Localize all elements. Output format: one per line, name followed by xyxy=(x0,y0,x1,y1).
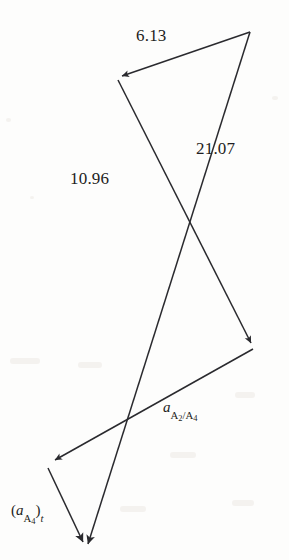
magnitude-label-21-07: 21.07 xyxy=(196,140,235,157)
vector-label-subscript: A4 xyxy=(24,512,36,524)
vector-diagram-svg xyxy=(0,0,289,560)
figure-canvas: 6.13 21.07 10.96 aA2/A4 (aA4)t xyxy=(0,0,289,560)
vector-label-subscript: A2/A4 xyxy=(171,409,198,421)
subscript-index-4: 4 xyxy=(31,516,35,526)
post-subscript-t: t xyxy=(41,512,44,524)
vector-label-base: a xyxy=(16,502,24,518)
subscript-index-4: 4 xyxy=(193,413,197,423)
subscript-index-2: 2 xyxy=(178,413,182,423)
vector-line-a-a2-a4 xyxy=(55,349,253,460)
vector-label-a-a4-t: (aA4)t xyxy=(11,503,44,518)
paren-close: ) xyxy=(36,502,41,518)
magnitude-label-6-13: 6.13 xyxy=(136,27,167,44)
vector-label-base: a xyxy=(163,399,171,415)
vector-line-21-07 xyxy=(88,32,250,544)
vector-line-10-96 xyxy=(118,80,251,343)
magnitude-label-10-96: 10.96 xyxy=(70,170,109,187)
vector-label-a-a2-a4: aA2/A4 xyxy=(163,400,198,415)
vector-line-a-a4-t xyxy=(48,468,83,542)
